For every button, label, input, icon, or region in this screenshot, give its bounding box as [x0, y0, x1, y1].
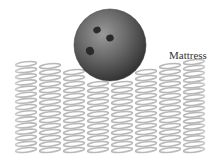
- spring-coil: [159, 63, 180, 154]
- spring-coil: [111, 81, 132, 154]
- mattress-label: Mattress: [169, 49, 207, 61]
- spring-coil: [87, 81, 108, 154]
- spring-coil: [39, 63, 60, 154]
- bowling-ball: [74, 9, 146, 81]
- spring-coil: [135, 69, 156, 154]
- spring-coil: [63, 69, 84, 154]
- bowling-ball-on-mattress-diagram: [0, 0, 221, 162]
